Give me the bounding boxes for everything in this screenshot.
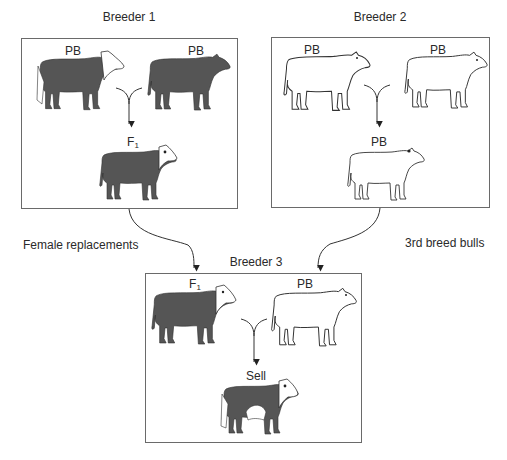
breeder-3-offspring-sell-calf-icon <box>221 379 298 434</box>
breeder-1-parent-1-cow-icon <box>37 51 124 110</box>
breeder-2-offspring-cow-icon <box>348 148 425 200</box>
breeder-3-parent-1-cow-icon <box>152 285 236 344</box>
breeder-1-merge-arrow <box>116 88 142 124</box>
breeder-3-merge-arrow <box>241 319 267 362</box>
female-replacements-arrow <box>129 209 194 268</box>
breeder-2-parent-1-bull-icon <box>284 52 370 111</box>
breeder-1-parent-2-cow-icon <box>148 54 230 110</box>
breeder-2-parent-2-cow-icon <box>405 52 487 108</box>
breeder-2-merge-arrow <box>364 85 390 124</box>
3rd-breed-bulls-arrow <box>318 208 380 268</box>
breeder-1-offspring-cow-icon <box>100 145 177 200</box>
breeder-3-parent-2-bull-icon <box>272 288 357 346</box>
diagram-graphics <box>0 0 507 460</box>
